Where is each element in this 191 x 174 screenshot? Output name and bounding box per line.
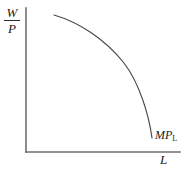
y-axis-label: W P (3, 6, 21, 35)
mpl-curve-label: MPL (155, 129, 177, 143)
x-axis-label: L (160, 153, 167, 166)
mpl-curve-label-subscript: L (172, 134, 177, 143)
marginal-product-of-labour-diagram: W P L MPL (0, 0, 191, 174)
mpl-curve-label-base: MP (155, 128, 172, 142)
mpl-curve (54, 15, 152, 138)
plot-area (0, 0, 191, 174)
y-axis-label-numerator: W (3, 6, 21, 19)
y-axis-label-denominator: P (3, 22, 21, 35)
